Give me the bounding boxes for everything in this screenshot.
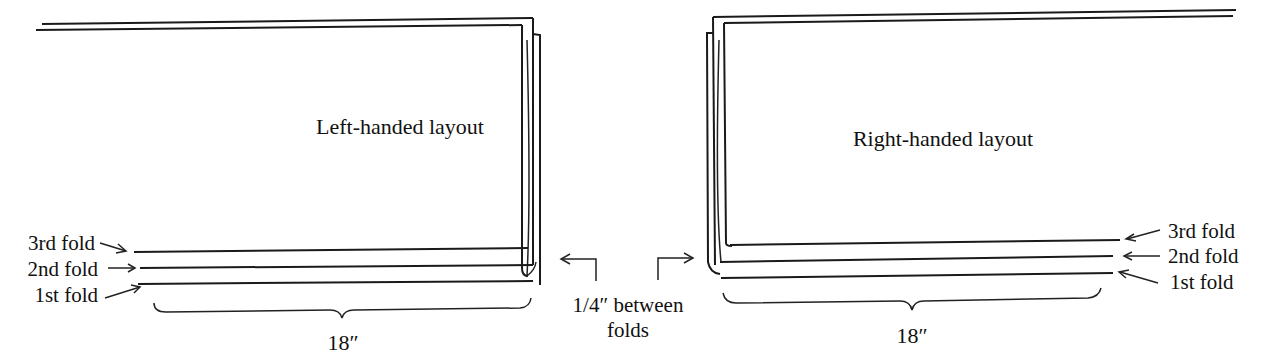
right-first-arrow [1119,270,1158,283]
right-third-fold-label: 3rd fold [1168,219,1236,243]
right-outer-edge [713,17,715,265]
left-layout: Left-handed layout 3rd fold 2nd fold 1st… [27,18,540,355]
right-second-arrow [1124,252,1160,260]
left-pointer-arrow [561,254,596,281]
right-first-fold-label: 1st fold [1170,270,1234,294]
left-second-fold-label: 2nd fold [27,257,98,281]
right-top-edge-outer [713,10,1236,17]
right-first-fold-line [721,273,1113,278]
left-width-label: 18″ [327,330,358,355]
right-inner-edge [724,23,732,246]
left-third-arrow [100,243,126,253]
gap-note-line2: folds [607,318,649,342]
right-top-edge-inner [724,16,1233,23]
left-second-arrow [108,264,135,272]
gap-note-line1: 1/4″ between [573,293,684,317]
left-width-brace [154,298,531,318]
right-layout: Right-handed layout 3rd fold 2nd fold 1s… [707,10,1239,348]
left-second-fold-line [140,265,533,268]
left-third-fold-label: 3rd fold [28,231,96,255]
left-top-edge-outer [42,18,533,24]
left-third-fold-line [134,248,528,252]
left-first-arrow [105,285,140,298]
right-width-label: 18″ [896,323,927,348]
left-first-fold-line [138,281,533,284]
right-third-fold-line [730,240,1120,245]
left-top-edge-inner [36,25,522,30]
left-layout-title: Left-handed layout [316,114,484,139]
right-layout-title: Right-handed layout [853,126,1033,151]
gap-note: 1/4″ between folds [561,253,693,342]
right-second-fold-line [720,256,1113,262]
left-first-fold-label: 1st fold [34,283,98,307]
left-curl [527,40,536,276]
right-pointer-arrow [658,253,693,280]
fold-layout-diagram: Left-handed layout 3rd fold 2nd fold 1st… [0,0,1262,361]
left-back-edge [533,34,540,285]
right-curl [717,40,721,262]
right-width-brace [723,288,1101,310]
right-second-fold-label: 2nd fold [1168,244,1239,268]
right-third-arrow [1126,230,1160,241]
